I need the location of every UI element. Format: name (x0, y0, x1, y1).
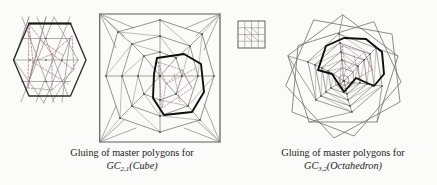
caption-right-argument: (Octahedron) (327, 160, 382, 171)
caption-left-line2: GC2,1(Cube) (44, 160, 220, 173)
hexagon-svg (6, 10, 98, 102)
caption-left-subscript: 2,1 (121, 165, 130, 172)
square-dashed-overlay (158, 62, 196, 108)
octahedron-gluing-figure (282, 12, 404, 148)
octahedron-web-svg (282, 12, 404, 148)
caption-left-argument: (Cube) (129, 160, 157, 171)
left-hexagon-figure (6, 10, 98, 102)
cube-square-svg (96, 8, 226, 146)
caption-right-subscript: 3,2 (318, 165, 327, 172)
caption-left: Gluing of master polygons for GC2,1(Cube… (44, 147, 220, 173)
cube-gluing-figure (96, 8, 226, 146)
figure-page: Gluing of master polygons for GC2,1(Cube… (0, 0, 437, 185)
caption-left-symbol: GC (106, 160, 120, 171)
caption-right-line1: Gluing of master polygons for (250, 147, 436, 159)
caption-left-line1: Gluing of master polygons for (44, 147, 220, 159)
square-vertices (105, 19, 215, 133)
hexagon-dashed-overlay (28, 24, 74, 90)
caption-right-symbol: GC (304, 160, 318, 171)
small-grid-figure (236, 19, 268, 51)
caption-right: Gluing of master polygons for GC3,2(Octa… (250, 147, 436, 173)
small-grid-svg (236, 19, 268, 51)
cube-glued-polygon (153, 54, 204, 115)
caption-right-line2: GC3,2(Octahedron) (250, 160, 436, 173)
